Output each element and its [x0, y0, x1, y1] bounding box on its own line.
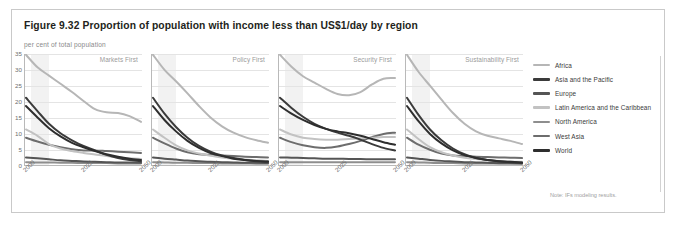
legend-swatch-icon: [533, 149, 550, 152]
y-tick-label: 35: [15, 51, 22, 57]
chart-panel-policy-first: Policy First200020252050: [151, 54, 269, 202]
legend-item-label: North America: [555, 118, 597, 125]
series-lines: [152, 54, 269, 165]
chart-legend: AfricaAsia and the PacificEuropeLatin Am…: [533, 58, 657, 157]
legend-item-label: Asia and the Pacific: [555, 76, 613, 83]
plot-area-sustainability-first[interactable]: [405, 54, 523, 166]
series-lines: [279, 54, 396, 165]
legend-item-world[interactable]: World: [533, 143, 657, 157]
series-line-world: [153, 106, 268, 162]
y-tick-label: 5: [19, 147, 22, 153]
y-tick-label: 15: [15, 115, 22, 121]
y-tick-label: 20: [15, 99, 22, 105]
series-line-africa: [153, 55, 268, 143]
series-lines: [406, 54, 523, 165]
legend-swatch-icon: [533, 64, 550, 67]
legend-swatch-icon: [533, 135, 550, 138]
x-axis-labels-policy-first: 200020252050: [151, 167, 269, 201]
legend-item-label: World: [555, 147, 572, 154]
chart-panel-markets-first: Markets First05101520253035200020252050: [24, 54, 142, 202]
series-lines: [25, 54, 142, 165]
plot-area-markets-first[interactable]: [24, 54, 142, 166]
legend-item-latin-america-and-the-caribbean[interactable]: Latin America and the Caribbean: [533, 101, 657, 115]
legend-item-label: Latin America and the Caribbean: [555, 104, 651, 111]
chart-panel-sustainability-first: Sustainability First200020252050: [405, 54, 523, 202]
panel-title-policy-first: Policy First: [233, 56, 265, 63]
y-tick-label: 30: [15, 67, 22, 73]
series-line-africa: [26, 55, 141, 122]
panel-title-security-first: Security First: [353, 56, 392, 63]
legend-item-north-america[interactable]: North America: [533, 115, 657, 129]
y-tick-label: 25: [15, 83, 22, 89]
series-line-europe: [280, 157, 395, 159]
legend-item-africa[interactable]: Africa: [533, 58, 657, 72]
plot-area-security-first[interactable]: [278, 54, 396, 166]
legend-swatch-icon: [533, 106, 550, 109]
legend-item-label: West Asia: [555, 133, 584, 140]
y-axis-labels: 05101520253035: [10, 54, 22, 166]
plot-area-policy-first[interactable]: [151, 54, 269, 166]
chart-panel-security-first: Security First200020252050: [278, 54, 396, 202]
y-tick-label: 10: [15, 131, 22, 137]
legend-item-europe[interactable]: Europe: [533, 86, 657, 100]
legend-item-asia-and-the-pacific[interactable]: Asia and the Pacific: [533, 72, 657, 86]
series-line-asia-and-the-pacific: [407, 98, 522, 163]
legend-item-west-asia[interactable]: West Asia: [533, 129, 657, 143]
x-axis-labels-security-first: 200020252050: [278, 167, 396, 201]
series-line-africa: [407, 55, 522, 144]
figure-title: Figure 9.32 Proportion of population wit…: [24, 20, 418, 31]
x-axis-labels-sustainability-first: 200020252050: [405, 167, 523, 201]
panel-title-sustainability-first: Sustainability First: [465, 56, 519, 63]
legend-swatch-icon: [533, 78, 550, 81]
legend-item-label: Europe: [555, 90, 576, 97]
legend-swatch-icon: [533, 121, 550, 124]
figure-subtitle: per cent of total population: [24, 41, 106, 48]
figure-card: Figure 9.32 Proportion of population wit…: [11, 9, 665, 213]
panel-title-markets-first: Markets First: [100, 56, 138, 63]
legend-swatch-icon: [533, 92, 550, 95]
legend-divider: [660, 56, 661, 192]
legend-item-label: Africa: [555, 62, 572, 69]
x-axis-labels-markets-first: 200020252050: [24, 167, 142, 201]
chart-panels: Markets First05101520253035200020252050P…: [24, 54, 524, 202]
series-line-asia-and-the-pacific: [280, 98, 395, 151]
figure-note: Note: IFs modeling results.: [550, 192, 617, 198]
